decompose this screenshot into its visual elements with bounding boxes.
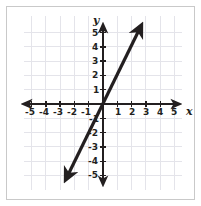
y-tick-label-3: 3 [92,57,98,66]
y-tick-label-2: 2 [92,71,98,80]
graph-figure: -5 -4 -3 -2 -1 1 2 3 4 5 5 4 3 2 1 -1 -2… [0,0,201,206]
x-tick-label--4: -4 [39,108,49,117]
x-tick-label-2: 2 [129,108,135,117]
y-tick-label-5: 5 [92,29,98,38]
x-axis-label: x [186,106,193,117]
x-tick-label--2: -2 [67,108,77,117]
y-tick-label--4: -4 [88,157,98,166]
y-tick-label--3: -3 [88,143,98,152]
y-axis-label: y [93,15,99,26]
coordinate-plane-svg [0,0,201,206]
x-tick-label-3: 3 [143,108,149,117]
x-tick-label-5: 5 [171,108,177,117]
y-tick-label--5: -5 [88,171,98,180]
x-tick-label-4: 4 [157,108,163,117]
x-tick-label--3: -3 [53,108,63,117]
x-tick-label-1: 1 [115,108,121,117]
y-tick-label-4: 4 [92,43,98,52]
x-tick-label--5: -5 [25,108,35,117]
y-tick-label--1: -1 [89,115,99,124]
y-tick-label--2: -2 [88,129,98,138]
y-tick-label-1: 1 [93,86,99,95]
